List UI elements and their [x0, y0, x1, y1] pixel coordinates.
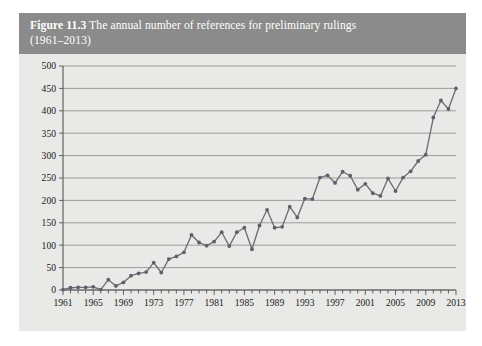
svg-text:500: 500 [42, 60, 57, 71]
data-point [265, 208, 269, 212]
data-point [311, 197, 315, 201]
data-point [159, 271, 163, 275]
data-point [439, 99, 443, 103]
figure-number: Figure 11.3 [30, 19, 86, 32]
figure-caption-text: The annual number of references for prel… [89, 19, 356, 32]
svg-text:350: 350 [42, 128, 57, 139]
svg-text:1973: 1973 [144, 297, 163, 308]
chart-series-references [61, 87, 458, 292]
data-point [454, 87, 458, 91]
data-point [303, 197, 307, 201]
figure-caption-header: Figure 11.3 The annual number of referen… [19, 13, 466, 54]
data-point [129, 274, 133, 278]
data-point [122, 280, 126, 284]
chart-plot-area: 050100150200250300350400450500 196119651… [19, 54, 466, 331]
data-point [258, 224, 262, 228]
data-point [76, 285, 80, 289]
data-point [326, 173, 330, 177]
svg-text:1969: 1969 [114, 297, 133, 308]
data-point [220, 230, 224, 234]
svg-text:250: 250 [42, 172, 57, 183]
data-point [273, 226, 277, 230]
data-point [341, 170, 345, 174]
data-point [174, 255, 178, 259]
chart-y-tick-labels: 050100150200250300350400450500 [42, 60, 57, 295]
svg-text:1985: 1985 [235, 297, 254, 308]
data-point [363, 182, 367, 186]
data-point [409, 169, 413, 173]
svg-text:300: 300 [42, 150, 57, 161]
data-point [394, 189, 398, 193]
data-point [227, 244, 231, 248]
data-point [152, 261, 156, 265]
data-point [288, 205, 292, 209]
svg-text:1961: 1961 [53, 297, 72, 308]
data-point [61, 288, 65, 292]
svg-text:1981: 1981 [205, 297, 224, 308]
data-point [69, 286, 73, 290]
data-point [106, 278, 110, 282]
data-point [280, 225, 284, 229]
figure-caption-line-1: Figure 11.3 The annual number of referen… [30, 18, 456, 33]
data-point [182, 250, 186, 254]
data-point [447, 107, 451, 111]
data-point [416, 159, 420, 163]
data-point [190, 233, 194, 237]
data-point [348, 174, 352, 178]
data-point [84, 285, 88, 289]
data-point [401, 176, 405, 180]
svg-text:1997: 1997 [325, 297, 344, 308]
data-point [295, 216, 299, 220]
data-point [424, 153, 428, 157]
figure-root: Figure 11.3 The annual number of referen… [0, 0, 482, 346]
svg-text:200: 200 [42, 195, 57, 206]
data-point [114, 284, 118, 288]
data-point [99, 288, 103, 292]
svg-text:50: 50 [46, 262, 56, 273]
svg-text:2009: 2009 [416, 297, 435, 308]
data-point [318, 176, 322, 180]
data-point [91, 285, 95, 289]
data-point [205, 244, 209, 248]
chart-gridlines [63, 66, 456, 290]
data-point [137, 272, 141, 276]
svg-text:2001: 2001 [356, 297, 375, 308]
svg-text:1989: 1989 [265, 297, 284, 308]
svg-text:100: 100 [42, 240, 57, 251]
data-point [431, 116, 435, 120]
svg-text:400: 400 [42, 105, 57, 116]
data-point [386, 177, 390, 181]
data-point [356, 188, 360, 192]
data-point [371, 191, 375, 195]
svg-text:450: 450 [42, 83, 57, 94]
svg-text:1977: 1977 [174, 297, 193, 308]
data-point [197, 241, 201, 245]
chart-x-axis [63, 290, 456, 295]
svg-text:2005: 2005 [386, 297, 405, 308]
svg-text:2013: 2013 [446, 297, 465, 308]
svg-text:150: 150 [42, 217, 57, 228]
line-chart: 050100150200250300350400450500 196119651… [19, 54, 466, 331]
data-point [144, 270, 148, 274]
svg-text:1965: 1965 [84, 297, 103, 308]
data-point [235, 230, 239, 234]
figure-caption-line-2: (1961–2013) [30, 33, 456, 48]
chart-y-axis [59, 66, 63, 290]
data-point [250, 247, 254, 251]
data-point [333, 181, 337, 185]
data-point [212, 240, 216, 244]
svg-text:0: 0 [51, 284, 56, 295]
data-point [379, 194, 383, 198]
chart-x-tick-labels: 1961196519691973197719811985198919931997… [53, 297, 465, 308]
figure-panel: Figure 11.3 The annual number of referen… [19, 13, 466, 331]
data-point [167, 257, 171, 261]
data-point [242, 226, 246, 230]
svg-text:1993: 1993 [295, 297, 314, 308]
